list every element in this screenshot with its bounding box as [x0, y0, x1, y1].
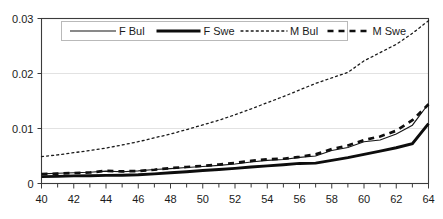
legend-label-m-swe: M Swe	[373, 25, 407, 37]
series-line-f-swe	[42, 124, 429, 177]
chart-legend: F BulF SweM BulM Swe	[62, 22, 407, 41]
x-tick-label: 40	[35, 193, 47, 205]
x-tick-label: 60	[358, 193, 370, 205]
y-tick-label: 0.01	[12, 123, 33, 135]
x-tick-label: 42	[68, 193, 80, 205]
x-tick-label: 56	[293, 193, 305, 205]
y-tick-label: 0.03	[12, 13, 33, 25]
legend-label-f-bul: F Bul	[119, 25, 145, 37]
x-tick-label: 50	[197, 193, 209, 205]
x-tick-label: 54	[261, 193, 273, 205]
plot-frame	[42, 19, 429, 184]
x-tick-label: 62	[390, 193, 402, 205]
x-tick-label: 48	[164, 193, 176, 205]
x-axis: 40424446485052545658606264	[35, 184, 434, 205]
y-axis: 00.010.020.03	[12, 13, 41, 190]
x-tick-label: 46	[132, 193, 144, 205]
legend-label-m-bul: M Bul	[290, 25, 318, 37]
series-line-m-bul	[42, 21, 429, 157]
y-tick-label: 0	[27, 178, 33, 190]
chart-canvas: 00.010.020.03 40424446485052545658606264…	[0, 0, 443, 219]
gridlines	[42, 74, 429, 129]
x-tick-label: 64	[422, 193, 434, 205]
series-group	[42, 21, 429, 177]
legend-label-f-swe: F Swe	[204, 25, 235, 37]
x-tick-label: 58	[326, 193, 338, 205]
x-tick-label: 44	[100, 193, 112, 205]
line-chart: 00.010.020.03 40424446485052545658606264…	[0, 0, 443, 219]
y-tick-label: 0.02	[12, 68, 33, 80]
x-tick-label: 52	[229, 193, 241, 205]
